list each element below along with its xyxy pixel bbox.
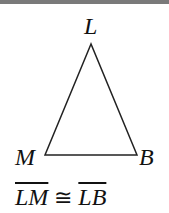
vertex-label-l: L [84, 14, 97, 38]
congruent-symbol: ≅ [54, 185, 72, 210]
vertex-label-b: B [139, 145, 154, 169]
segment-lb: LB [78, 184, 106, 210]
vertex-label-m: M [15, 145, 35, 169]
segment-lm: LM [15, 184, 48, 210]
congruence-statement: LM≅LB [15, 185, 106, 209]
